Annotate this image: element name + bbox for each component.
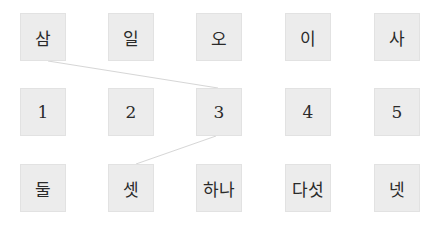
native-word-box-set[interactable]: 셋 <box>108 164 154 212</box>
native-word-box-daseot[interactable]: 다섯 <box>285 164 331 212</box>
number-box-3[interactable]: 3 <box>196 88 242 136</box>
number-box-1[interactable]: 1 <box>20 88 66 136</box>
connection-line-3-set <box>136 136 216 164</box>
korean-word-box-o[interactable]: 오 <box>196 13 242 61</box>
korean-word-box-il[interactable]: 일 <box>108 13 154 61</box>
number-box-2[interactable]: 2 <box>108 88 154 136</box>
native-word-box-hana[interactable]: 하나 <box>196 164 242 212</box>
korean-word-box-sam[interactable]: 삼 <box>20 13 66 61</box>
korean-word-box-i[interactable]: 이 <box>285 13 331 61</box>
korean-word-box-sa[interactable]: 사 <box>374 13 420 61</box>
number-box-5[interactable]: 5 <box>374 88 420 136</box>
number-box-4[interactable]: 4 <box>285 88 331 136</box>
native-word-box-dul[interactable]: 둘 <box>20 164 66 212</box>
connection-line-sam-3 <box>48 61 218 88</box>
native-word-box-net[interactable]: 넷 <box>374 164 420 212</box>
